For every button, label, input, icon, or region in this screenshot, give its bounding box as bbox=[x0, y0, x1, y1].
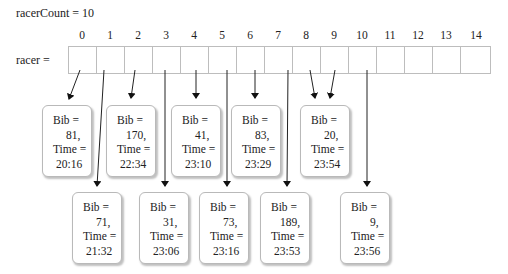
time-label: Time = bbox=[53, 142, 91, 157]
bib-label: Bib = bbox=[242, 113, 280, 128]
bib-label: Bib = bbox=[117, 113, 155, 128]
record-bib-71: Bib = 71, Time = 21:32 bbox=[72, 192, 122, 264]
record-bib-170: Bib = 170, Time = 22:34 bbox=[106, 105, 156, 177]
time-value: 20:16 bbox=[53, 157, 91, 172]
time-label: Time = bbox=[117, 142, 155, 157]
bib-label: Bib = bbox=[83, 200, 121, 215]
time-value: 23:16 bbox=[210, 244, 248, 259]
bib-value: 189, bbox=[271, 215, 309, 230]
record-bib-81: Bib = 81, Time = 20:16 bbox=[42, 105, 92, 177]
bib-label: Bib = bbox=[182, 113, 220, 128]
record-bib-20: Bib = 20, Time = 23:54 bbox=[300, 105, 350, 177]
bib-label: Bib = bbox=[351, 200, 389, 215]
bib-label: Bib = bbox=[271, 200, 309, 215]
arrow-1-icon bbox=[97, 70, 104, 186]
record-bib-189: Bib = 189, Time = 23:53 bbox=[260, 192, 310, 264]
time-value: 23:53 bbox=[271, 244, 309, 259]
arrow-8-icon bbox=[310, 70, 315, 98]
bib-value: 20, bbox=[311, 128, 349, 143]
record-bib-41: Bib = 41, Time = 23:10 bbox=[171, 105, 221, 177]
time-value: 21:32 bbox=[83, 244, 121, 259]
arrow-0-icon bbox=[69, 70, 80, 99]
bib-value: 170, bbox=[117, 128, 155, 143]
bib-label: Bib = bbox=[150, 200, 188, 215]
arrow-2-icon bbox=[131, 70, 135, 98]
time-label: Time = bbox=[242, 142, 280, 157]
time-label: Time = bbox=[271, 229, 309, 244]
record-bib-9: Bib = 9, Time = 23:56 bbox=[340, 192, 390, 264]
record-bib-83: Bib = 83, Time = 23:29 bbox=[231, 105, 281, 177]
time-label: Time = bbox=[210, 229, 248, 244]
time-label: Time = bbox=[311, 142, 349, 157]
bib-value: 83, bbox=[242, 128, 280, 143]
time-label: Time = bbox=[182, 142, 220, 157]
bib-label: Bib = bbox=[53, 113, 91, 128]
bib-value: 73, bbox=[210, 215, 248, 230]
arrow-7-icon bbox=[287, 70, 288, 186]
time-label: Time = bbox=[83, 229, 121, 244]
time-value: 23:54 bbox=[311, 157, 349, 172]
time-label: Time = bbox=[150, 229, 188, 244]
bib-label: Bib = bbox=[210, 200, 248, 215]
time-value: 22:34 bbox=[117, 157, 155, 172]
time-value: 23:06 bbox=[150, 244, 188, 259]
bib-value: 41, bbox=[182, 128, 220, 143]
record-bib-31: Bib = 31, Time = 23:06 bbox=[139, 192, 189, 264]
record-bib-73: Bib = 73, Time = 23:16 bbox=[199, 192, 249, 264]
bib-value: 71, bbox=[83, 215, 121, 230]
time-value: 23:10 bbox=[182, 157, 220, 172]
bib-value: 9, bbox=[351, 215, 389, 230]
bib-label: Bib = bbox=[311, 113, 349, 128]
arrow-9-icon bbox=[330, 70, 335, 98]
bib-value: 31, bbox=[150, 215, 188, 230]
time-value: 23:56 bbox=[351, 244, 389, 259]
bib-value: 81, bbox=[53, 128, 91, 143]
time-label: Time = bbox=[351, 229, 389, 244]
time-value: 23:29 bbox=[242, 157, 280, 172]
